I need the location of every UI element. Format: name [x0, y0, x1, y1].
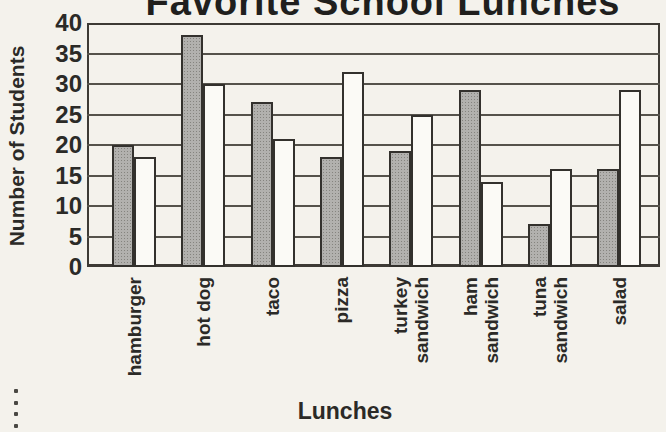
edge-dot [14, 401, 18, 405]
y-tick-label-30: 30 [24, 71, 82, 97]
bar-tuna-sandwich-shaded-gray-bars [528, 224, 550, 267]
bar-ham-sandwich-shaded-gray-bars [459, 90, 481, 267]
gridline-20 [87, 144, 660, 146]
y-tick-label-25: 25 [24, 102, 82, 128]
x-category-label-ham-sandwich: hamsandwich [460, 277, 502, 364]
bar-hamburger-shaded-gray-bars [112, 145, 134, 267]
bar-taco-white-bars [273, 139, 295, 267]
x-category-label-salad: salad [609, 277, 630, 326]
x-category-label-hamburger: hamburger [124, 277, 145, 376]
gridline-5 [87, 236, 660, 238]
x-category-label-tuna-sandwich: tunasandwich [529, 277, 571, 364]
bar-pizza-shaded-gray-bars [320, 157, 342, 267]
gridline-25 [87, 114, 660, 116]
bar-hot-dog-white-bars [203, 84, 225, 267]
bar-salad-shaded-gray-bars [597, 169, 619, 267]
worksheet-page: Favorite School Lunches 4035302520151050… [0, 0, 666, 432]
gridline-10 [87, 205, 660, 207]
x-category-label-hot-dog: hot dog [193, 277, 214, 347]
y-tick-label-40: 40 [24, 10, 82, 36]
chart-title: Favorite School Lunches [100, 0, 666, 24]
bar-salad-white-bars [619, 90, 641, 267]
gridline-35 [87, 53, 660, 55]
x-axis-title: Lunches [298, 398, 393, 425]
bar-taco-shaded-gray-bars [251, 102, 273, 267]
bar-tuna-sandwich-white-bars [550, 169, 572, 267]
x-category-label-turkey-sandwich: turkeysandwich [390, 277, 432, 364]
y-tick-label-35: 35 [24, 41, 82, 67]
edge-dot [14, 424, 18, 428]
y-tick-label-15: 15 [24, 163, 82, 189]
y-axis-title: Number of Students [5, 46, 29, 247]
y-tick-label-0: 0 [24, 254, 82, 280]
y-tick-label-10: 10 [24, 193, 82, 219]
bar-hot-dog-shaded-gray-bars [181, 35, 203, 267]
bar-ham-sandwich-white-bars [481, 182, 503, 267]
gridline-15 [87, 175, 660, 177]
bar-turkey-sandwich-white-bars [411, 115, 433, 268]
bar-hamburger-white-bars [134, 157, 156, 267]
x-category-label-taco: taco [262, 277, 283, 316]
y-tick-label-5: 5 [24, 224, 82, 250]
y-tick-label-20: 20 [24, 132, 82, 158]
bar-turkey-sandwich-shaded-gray-bars [389, 151, 411, 267]
edge-dot [14, 389, 18, 393]
gridline-30 [87, 83, 660, 85]
x-category-label-pizza: pizza [331, 277, 352, 323]
edge-dot [14, 412, 18, 416]
bar-pizza-white-bars [342, 72, 364, 267]
